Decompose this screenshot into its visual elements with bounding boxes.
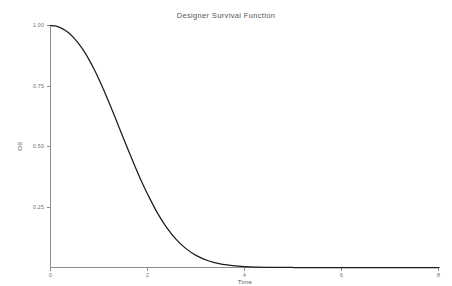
y-tick-label-1: 1.00 bbox=[33, 22, 44, 28]
y-tick-label-3: 0.50 bbox=[33, 143, 44, 149]
y-tick-label-4: 0.25 bbox=[33, 204, 44, 210]
x-tick-label-2: 2 bbox=[146, 272, 149, 278]
survival-curve bbox=[51, 26, 439, 268]
survival-plot: 1.00 0.75 0.50 0.25 0 2 4 6 8 Time OS bbox=[0, 0, 452, 286]
chart-figure: Designer Survival Function 1.00 0.75 0.5… bbox=[0, 0, 452, 286]
x-tick-label-8: 8 bbox=[437, 272, 440, 278]
x-tick-label-0: 0 bbox=[49, 272, 52, 278]
x-tick-label-6: 6 bbox=[340, 272, 343, 278]
x-axis-title: Time bbox=[238, 278, 253, 285]
y-axis-title: OS bbox=[16, 141, 23, 151]
y-tick-label-2: 0.75 bbox=[33, 83, 44, 89]
